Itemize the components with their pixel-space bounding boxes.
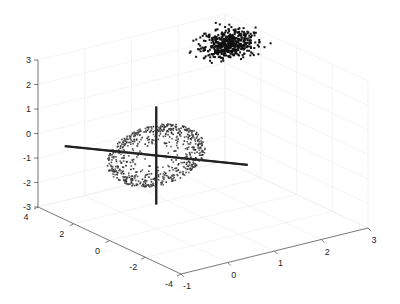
ellipsoid-point — [149, 165, 151, 167]
ellipsoid-point — [130, 179, 132, 181]
x-tick-label: 0 — [231, 270, 236, 280]
ellipsoid-point — [185, 126, 187, 128]
cluster-point — [223, 38, 225, 40]
cluster-point — [254, 34, 256, 36]
ellipsoid-point — [136, 139, 138, 141]
cluster-point — [253, 31, 255, 33]
ellipsoid-point — [190, 168, 192, 170]
cluster-point — [217, 41, 219, 43]
ellipsoid-point — [124, 182, 126, 184]
ellipsoid-point — [157, 167, 159, 169]
ellipsoid-point — [108, 159, 110, 161]
ellipsoid-point — [132, 161, 134, 163]
cluster-point — [240, 58, 242, 60]
ellipsoid-point — [141, 185, 143, 187]
ellipsoid-point — [130, 169, 132, 171]
ellipsoid-point — [137, 176, 139, 178]
ellipsoid-point — [189, 143, 191, 145]
ellipsoid-point — [150, 131, 152, 133]
ellipsoid-point — [175, 150, 177, 152]
ellipsoid-point — [202, 141, 204, 143]
cluster-point — [229, 34, 231, 36]
cluster-point — [203, 57, 205, 59]
ellipsoid-point — [127, 145, 129, 147]
ellipsoid-point — [123, 149, 125, 151]
cluster-point — [200, 50, 202, 52]
ellipsoid-point — [189, 153, 191, 155]
ellipsoid-point — [164, 177, 166, 179]
ellipsoid-point — [186, 136, 188, 138]
ellipsoid-point — [189, 129, 191, 131]
3d-scatter-plot: -10123-4-2024-3-2-10123 — [0, 0, 400, 304]
ellipsoid-point — [134, 185, 136, 187]
ellipsoid-point — [158, 127, 160, 129]
cluster-point — [208, 35, 210, 37]
ellipsoid-point — [142, 179, 144, 181]
ellipsoid-point — [153, 126, 155, 128]
ellipsoid-point — [199, 143, 201, 145]
ellipsoid-point — [191, 134, 193, 136]
cluster-point — [230, 43, 232, 45]
ellipsoid-point — [130, 162, 132, 164]
ellipsoid-point — [188, 147, 190, 149]
cluster-point — [234, 30, 236, 32]
ellipsoid-point — [184, 162, 186, 164]
ellipsoid-point — [200, 140, 202, 142]
y-tick — [106, 241, 110, 243]
cluster-point — [195, 39, 197, 41]
x-tick — [275, 251, 278, 254]
ellipsoid-point — [190, 142, 192, 144]
cluster-point — [219, 56, 221, 58]
cluster-point — [237, 41, 239, 43]
cluster-point — [214, 56, 216, 58]
ellipsoid-point — [197, 134, 199, 136]
ellipsoid-point — [175, 126, 177, 128]
x-tick-label: -1 — [183, 281, 191, 291]
cluster-point — [212, 39, 214, 41]
ellipsoid-point — [158, 174, 160, 176]
data-points — [65, 22, 272, 205]
ellipsoid-point — [139, 150, 141, 152]
ellipsoid-point — [165, 133, 167, 135]
ellipsoid-point — [191, 147, 193, 149]
ellipsoid-point — [119, 180, 121, 182]
ellipsoid-point — [111, 168, 113, 170]
z-tick-label: -1 — [23, 153, 31, 163]
ellipsoid-point — [131, 175, 133, 177]
cluster-point — [224, 26, 226, 28]
ellipsoid-point — [162, 184, 164, 186]
ellipsoid-point — [194, 163, 196, 165]
ellipsoid-point — [193, 148, 195, 150]
ellipsoid-point — [175, 159, 177, 161]
ellipsoid-point — [166, 145, 168, 147]
ellipsoid-point — [176, 170, 178, 172]
ellipsoid-point — [188, 138, 190, 140]
ellipsoid-point — [135, 164, 137, 166]
cluster-point — [253, 47, 255, 49]
ellipsoid-point — [139, 129, 141, 131]
ellipsoid-point — [129, 136, 131, 138]
ellipsoid-point — [159, 135, 161, 137]
ellipsoid-point — [192, 166, 194, 168]
x-tick-label: 3 — [371, 235, 376, 245]
ellipsoid-point — [148, 173, 150, 175]
cluster-point — [224, 40, 226, 42]
z-tick-label: 0 — [26, 129, 31, 139]
x-tick — [228, 263, 231, 266]
cluster-point — [199, 37, 201, 39]
ellipsoid-point — [120, 147, 122, 149]
cluster-point — [209, 54, 211, 56]
ellipsoid-point — [137, 130, 139, 132]
ellipsoid-point — [121, 162, 123, 164]
ellipsoid-point — [201, 137, 203, 139]
ellipsoid-point — [185, 153, 187, 155]
ellipsoid-point — [164, 171, 166, 173]
cluster-point — [209, 56, 211, 58]
cluster-point — [228, 28, 230, 30]
ellipsoid-point — [167, 165, 169, 167]
ellipsoid-point — [201, 143, 203, 145]
cluster-point — [217, 28, 219, 30]
ellipsoid-point — [123, 155, 125, 157]
ellipsoid-point — [174, 168, 176, 170]
cluster-point — [233, 54, 235, 56]
